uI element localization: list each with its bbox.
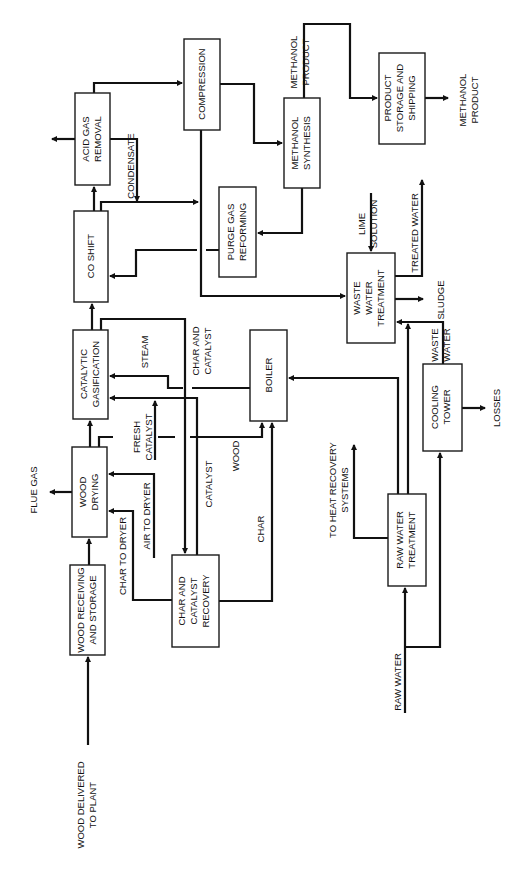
label-treated-water: TREATED WATER bbox=[409, 193, 420, 273]
unit-methanol-synthesis: METHANOL SYNTHESIS bbox=[284, 98, 320, 188]
unit-boiler: BOILER bbox=[250, 330, 287, 421]
label-steam: STEAM bbox=[139, 336, 150, 369]
label-char-and-catalyst: CHAR AND bbox=[190, 326, 201, 375]
unit-label: METHANOL bbox=[289, 117, 300, 170]
unit-label: DRYING bbox=[89, 474, 100, 511]
unit-acid-gas-removal: ACID GAS REMOVAL bbox=[75, 93, 110, 185]
label-wood-delivered: WOOD DELIVERED bbox=[75, 761, 86, 848]
unit-label: GASIFICATION bbox=[90, 341, 101, 407]
unit-char-catalyst-recovery: CHAR AND CATALYST RECOVERY bbox=[172, 555, 219, 647]
unit-label: CATALYST bbox=[188, 577, 199, 624]
synthesis-to-purge-stream bbox=[258, 188, 302, 233]
label-char-to-dryer: CHAR TO DRYER bbox=[117, 517, 128, 595]
unit-label: WASTE bbox=[351, 281, 362, 314]
unit-label: CATALYTIC bbox=[78, 349, 89, 399]
label-flue-gas: FLUE GAS bbox=[28, 467, 39, 514]
label-fresh-catalyst: FRESH bbox=[131, 421, 142, 453]
steam-stream bbox=[110, 376, 250, 388]
unit-label: ACID GAS bbox=[80, 116, 91, 161]
heat-recovery-stream bbox=[354, 445, 388, 538]
label-condensate: CONDENSATE bbox=[125, 133, 136, 198]
unit-label: BOILER bbox=[263, 357, 274, 392]
unit-label: REMOVAL bbox=[92, 116, 103, 162]
methanol-product-stream bbox=[304, 24, 377, 98]
unit-label: COOLING bbox=[429, 385, 440, 429]
unit-label: COMPRESSION bbox=[196, 48, 207, 119]
purge-to-coshift-stream bbox=[110, 250, 219, 276]
label-losses: LOSSES bbox=[491, 389, 502, 427]
label-char: CHAR bbox=[255, 515, 266, 542]
unit-product-storage: PRODUCT STORAGE AND SHIPPING bbox=[379, 53, 425, 144]
label-waste-water: WATER bbox=[441, 328, 452, 361]
unit-waste-water-treatment: WASTE WATER TREATMENT bbox=[347, 253, 395, 343]
unit-cooling-tower: COOLING TOWER bbox=[423, 364, 462, 451]
label-fresh-catalyst: CATALYST bbox=[143, 413, 154, 460]
label-heat-recovery: SYSTEMS bbox=[339, 467, 350, 512]
unit-label: AND STORAGE bbox=[87, 576, 98, 645]
unit-label: WOOD RECEIVING bbox=[75, 567, 86, 653]
compression-to-synthesis-stream bbox=[220, 84, 282, 143]
acidgas-to-compression-stream bbox=[94, 83, 182, 93]
unit-label: RECOVERY bbox=[200, 574, 211, 628]
unit-label: PRODUCT bbox=[382, 74, 393, 121]
char-to-boiler-stream bbox=[219, 423, 272, 601]
unit-co-shift: CO SHIFT bbox=[74, 211, 108, 302]
unit-label: TREATMENT bbox=[375, 269, 386, 327]
unit-label: SYNTHESIS bbox=[301, 116, 312, 170]
label-methanol-product: PRODUCT bbox=[300, 38, 311, 85]
label-wood: WOOD bbox=[230, 441, 241, 472]
coshift-to-compression-line-stream bbox=[101, 202, 198, 211]
unit-wood-receiving: WOOD RECEIVING AND STORAGE bbox=[70, 565, 105, 655]
label-raw-water: RAW WATER bbox=[392, 653, 403, 711]
label-methanol-product: METHANOL bbox=[288, 36, 299, 89]
label-waste-water: WASTE bbox=[429, 328, 440, 361]
unit-wood-drying: WOOD DRYING bbox=[72, 447, 107, 537]
unit-purge-gas-reforming: PURGE GAS REFORMING bbox=[219, 187, 256, 277]
unit-label: CO SHIFT bbox=[85, 234, 96, 279]
unit-label: REFORMING bbox=[237, 203, 248, 261]
unit-raw-water-treatment: RAW WATER TREATMENT bbox=[388, 494, 426, 586]
unit-label: RAW WATER bbox=[394, 511, 405, 569]
label-air-to-dryer: AIR TO DRYER bbox=[141, 482, 152, 549]
unit-label: PURGE GAS bbox=[225, 204, 236, 261]
label-wood-delivered: TO PLANT bbox=[87, 782, 98, 828]
label-catalyst: CATALYST bbox=[203, 460, 214, 507]
unit-label: STORAGE AND bbox=[394, 64, 405, 133]
label-methanol-product-out: PRODUCT bbox=[469, 76, 480, 123]
label-heat-recovery: TO HEAT RECOVERY bbox=[327, 441, 338, 538]
label-char-and-catalyst: CATALYST bbox=[202, 327, 213, 374]
unit-label: WOOD bbox=[77, 477, 88, 508]
label-sludge: SLUDGE bbox=[435, 280, 446, 319]
label-methanol-product-out: METHANOL bbox=[457, 74, 468, 127]
label-lime-solution: SOLUTION bbox=[368, 200, 379, 249]
unit-label: CHAR AND bbox=[176, 576, 187, 625]
unit-label: WATER bbox=[363, 281, 374, 314]
unit-label: TREATMENT bbox=[406, 511, 417, 569]
unit-label: TOWER bbox=[441, 389, 452, 424]
unit-label: SHIPPING bbox=[406, 75, 417, 120]
unit-compression: COMPRESSION bbox=[184, 39, 220, 130]
process-flow-diagram: WOOD RECEIVING AND STORAGE WOOD DRYING C… bbox=[0, 0, 516, 871]
label-lime-solution: LIME bbox=[356, 213, 367, 235]
unit-catalytic-gasification: CATALYTIC GASIFICATION bbox=[73, 330, 108, 419]
